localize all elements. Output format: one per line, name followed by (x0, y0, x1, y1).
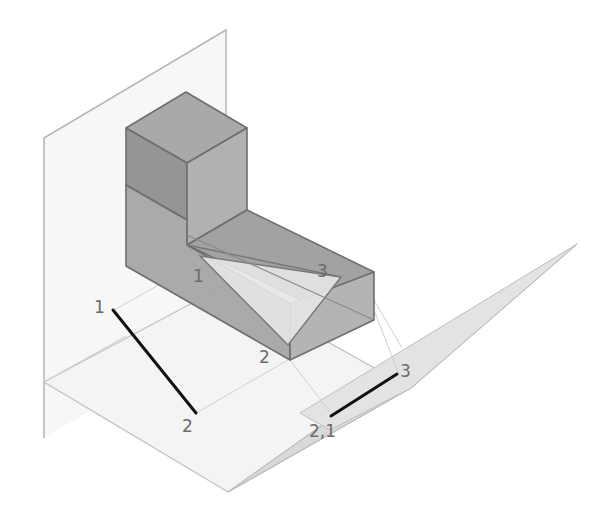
label-frontal-p2: 2 (182, 416, 193, 436)
label-triangle-p2: 2 (259, 347, 270, 367)
label-triangle-p3: 3 (317, 261, 328, 281)
label-triangle-p1: 1 (193, 266, 204, 286)
diagram-canvas: 1 2 3 1 2 3 2,1 (0, 0, 615, 527)
label-aux-p21: 2,1 (309, 421, 336, 441)
label-frontal-p1: 1 (94, 297, 105, 317)
label-aux-p3: 3 (400, 361, 411, 381)
